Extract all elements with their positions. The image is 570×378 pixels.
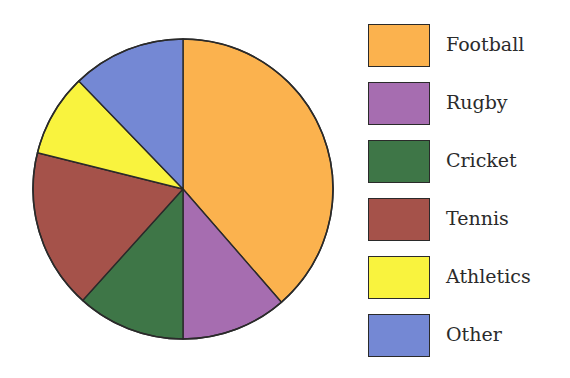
legend-label-rugby: Rugby [446, 90, 508, 114]
legend-item-tennis: Tennis [368, 198, 568, 241]
legend-label-cricket: Cricket [446, 148, 517, 172]
legend-swatch-tennis [368, 198, 430, 241]
legend-item-rugby: Rugby [368, 82, 568, 125]
legend-swatch-athletics [368, 256, 430, 299]
legend-swatch-cricket [368, 140, 430, 183]
legend-swatch-rugby [368, 82, 430, 125]
pie-slices [33, 39, 333, 339]
legend-item-other: Other [368, 314, 568, 357]
legend-item-cricket: Cricket [368, 140, 568, 183]
legend-label-athletics: Athletics [446, 264, 531, 288]
pie-chart: Football Rugby Cricket Tennis Athletics … [0, 0, 570, 378]
legend-label-tennis: Tennis [446, 206, 509, 230]
legend-item-athletics: Athletics [368, 256, 568, 299]
legend-item-football: Football [368, 24, 568, 67]
legend-label-other: Other [446, 322, 502, 346]
legend-swatch-football [368, 24, 430, 67]
legend-label-football: Football [446, 32, 524, 56]
legend-swatch-other [368, 314, 430, 357]
